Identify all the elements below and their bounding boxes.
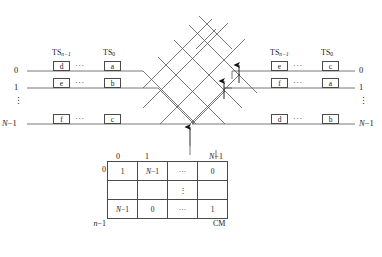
crossbar-diag-a5: [189, 25, 257, 93]
input-cell-rown1-ts0: c: [104, 114, 121, 124]
cm-cell-0-1: N−1: [138, 162, 168, 181]
cm-cell-0-3: 0: [198, 162, 228, 181]
input-row0-ellipsis: ···: [75, 61, 85, 71]
input-row1-ellipsis: ···: [75, 78, 85, 88]
output-cell-row0-ts0: c: [322, 61, 339, 71]
control-memory-label: CM: [213, 219, 225, 228]
cm-row-0: 1 N−1 ··· 0: [108, 162, 228, 181]
input-ts-header-0: TS0: [103, 49, 115, 58]
cm-row-n-1: N−1 0 ··· 1: [108, 200, 228, 219]
cm-cell-0-0: 1: [108, 162, 138, 181]
crossbar-diag-a2: [158, 88, 194, 124]
input-row-label-0: 0: [14, 66, 18, 75]
diagram-canvas: 0 1 ⋮ N−1 0 1 ⋮ N−1 TSn−1 TS0 TSn−1 TS0 …: [0, 0, 382, 257]
cm-cell-2-1: 0: [138, 200, 168, 219]
crossbar-diag-a6: [199, 16, 232, 49]
cm-cell-2-0: N−1: [108, 200, 138, 219]
cm-cell-1-1: [138, 181, 168, 200]
output-rows-ellipsis: ⋮: [359, 100, 367, 103]
output-row1-ellipsis: ···: [293, 78, 303, 88]
output-stub-0: [232, 71, 239, 79]
cm-cell-2-2: ···: [168, 200, 198, 219]
crossbar-diag-a3: [158, 57, 225, 124]
output-row-label-0: 0: [359, 66, 363, 75]
crossbar-diag-b5: [143, 19, 212, 88]
crossbar-diag-a1: [143, 71, 196, 124]
input-rows-ellipsis: ⋮: [14, 100, 22, 103]
input-cell-row1-ts0: b: [104, 78, 121, 88]
input-cell-row0-tsn1: d: [53, 61, 70, 71]
cm-row-header-0: 0: [84, 165, 106, 174]
input-rown1-ellipsis: ···: [75, 114, 85, 124]
output-cell-row1-ts0: a: [322, 78, 339, 88]
cm-cell-1-2: ⋮: [168, 181, 198, 200]
cm-cell-2-3: 1: [198, 200, 228, 219]
output-cell-rown1-ts0: b: [322, 114, 339, 124]
output-row-label-1: 1: [359, 83, 363, 92]
output-ts-header-0: TS0: [321, 49, 333, 58]
cm-col-header-1: 1: [137, 152, 157, 161]
output-rown1-ellipsis: ···: [293, 114, 303, 124]
output-cell-rown1-tsn1: d: [271, 114, 288, 124]
cm-cell-1-3: [198, 181, 228, 200]
output-cell-row0-tsn1: e: [271, 61, 288, 71]
cm-cell-0-2: ···: [168, 162, 198, 181]
output-ts-header-n-1: TSn−1: [270, 49, 289, 58]
output-row-label-n-1: N−1: [359, 119, 374, 128]
cm-col-header-n-1: N−1: [202, 152, 230, 161]
input-cell-row0-ts0: a: [104, 61, 121, 71]
cm-row-header-n-1: n−1: [78, 219, 106, 228]
control-memory-table: 1 N−1 ··· 0 ⋮ N−1 0 ··· 1: [107, 161, 228, 219]
input-cell-row1-tsn1: e: [53, 78, 70, 88]
cm-cell-1-0: [108, 181, 138, 200]
cm-col-header-0: 0: [108, 152, 128, 161]
input-row-label-1: 1: [14, 83, 18, 92]
output-cell-row1-tsn1: f: [271, 78, 288, 88]
crossbar-diag-b4: [143, 23, 228, 108]
output-row0-ellipsis: ···: [293, 61, 303, 71]
input-cell-rown1-tsn1: f: [53, 114, 70, 124]
cm-row-middle: ⋮: [108, 181, 228, 200]
input-ts-header-n-1: TSn−1: [52, 49, 71, 58]
input-row-label-n-1: N−1: [2, 119, 17, 128]
